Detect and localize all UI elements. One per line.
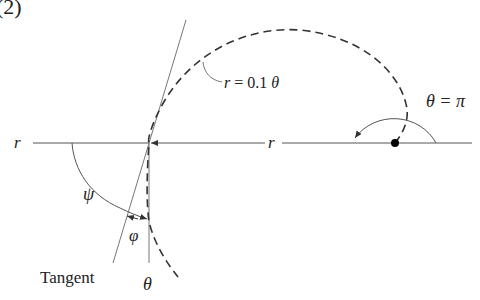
phi-arrow bbox=[127, 216, 138, 219]
psi-label: ψ bbox=[83, 184, 95, 204]
panel-label: (2) bbox=[0, 0, 22, 19]
spiral-equation-label: r = 0.1 θ bbox=[224, 74, 279, 91]
r-label-left: r bbox=[14, 133, 21, 152]
tangent-label: Tangent bbox=[40, 268, 95, 287]
psi-arc bbox=[72, 143, 147, 219]
phi-label: φ bbox=[129, 226, 138, 245]
pole-dot bbox=[391, 139, 399, 147]
spiral-diagram: (2) r r r = 0.1 θ r = 0.1 θ θ = π ψ φ θ … bbox=[0, 0, 480, 300]
r-label-middle: r bbox=[268, 133, 275, 152]
theta-pi-label: θ = π bbox=[426, 91, 466, 111]
theta-bottom-label: θ bbox=[143, 274, 152, 294]
spiral-curve bbox=[147, 30, 407, 277]
spiral-leader bbox=[203, 62, 222, 82]
